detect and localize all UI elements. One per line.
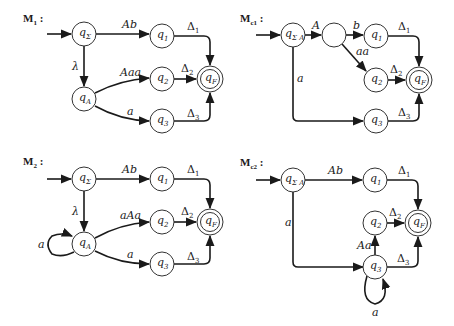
transition-label: aa bbox=[356, 45, 369, 58]
transition-edge bbox=[365, 276, 385, 304]
state-qsigmaa: qΣ A bbox=[281, 23, 305, 47]
transition-label: Δ3 bbox=[398, 106, 410, 121]
transition-label: a bbox=[297, 72, 304, 85]
transition-label: Δ2 bbox=[181, 62, 193, 77]
transition-label: a bbox=[127, 105, 134, 118]
machine-label: M2 : bbox=[23, 155, 43, 170]
transition-edge bbox=[95, 251, 149, 264]
state-q2: q2 bbox=[150, 210, 174, 234]
state-qf: qF bbox=[405, 210, 431, 236]
transition-label: Δ1 bbox=[398, 20, 410, 35]
diagram-layer: M1 :AbλAaaaΔ1Δ2Δ3qΣqAq1q2q3qFMc1 :AbaaaΔ… bbox=[23, 12, 432, 319]
state-q3: q3 bbox=[364, 109, 388, 133]
transition-label: Δ2 bbox=[181, 205, 193, 220]
state-qa: qA bbox=[72, 232, 96, 256]
transition-edge bbox=[95, 222, 149, 238]
machine-label: Mc2 : bbox=[240, 156, 263, 171]
state-q3: q3 bbox=[363, 255, 387, 279]
transition-label: Δ3 bbox=[187, 107, 199, 122]
transition-edge bbox=[95, 106, 149, 121]
transition-edge bbox=[388, 36, 419, 66]
state-qf: qF bbox=[406, 67, 432, 93]
state-q1: q1 bbox=[150, 24, 174, 48]
transition-label: b bbox=[353, 19, 360, 32]
state-blank bbox=[322, 23, 346, 47]
transition-label: Δ2 bbox=[389, 206, 401, 221]
transition-label: a bbox=[38, 238, 45, 251]
transition-edge bbox=[48, 234, 74, 256]
machine-label: M1 : bbox=[23, 12, 43, 27]
state-q1: q1 bbox=[150, 167, 174, 191]
state-q2: q2 bbox=[363, 211, 387, 235]
diagram-m2: M2 :AbλaAaaaΔ1Δ2Δ3qΣqAq1q2q3qF bbox=[23, 155, 223, 276]
transition-label: Δ3 bbox=[397, 252, 409, 267]
transition-edge bbox=[174, 36, 210, 65]
transition-label: Δ1 bbox=[187, 20, 199, 35]
state-q3: q3 bbox=[150, 252, 174, 276]
transition-edge bbox=[293, 192, 363, 267]
transition-label: Aa bbox=[356, 239, 372, 252]
transition-label: A bbox=[311, 19, 320, 32]
diagram-m1: M1 :AbλAaaaΔ1Δ2Δ3qΣqAq1q2q3qF bbox=[23, 12, 223, 133]
state-qf: qF bbox=[197, 66, 223, 92]
automata-diagrams-canvas: M1 :AbλAaaaΔ1Δ2Δ3qΣqAq1q2q3qFMc1 :AbaaaΔ… bbox=[0, 0, 454, 326]
state-q2: q2 bbox=[150, 67, 174, 91]
state-qsigmaa: qΣ A bbox=[281, 168, 305, 192]
transition-label: Δ2 bbox=[390, 63, 402, 78]
transition-edge bbox=[174, 179, 210, 208]
diagram-mc1: Mc1 :AbaaaΔ1Δ2Δ3qΣ Aq1q2q3qF bbox=[240, 12, 432, 133]
transition-label: a bbox=[127, 248, 134, 261]
transition-label: a bbox=[285, 216, 292, 229]
transition-label: Ab bbox=[121, 18, 137, 31]
transition-label: Δ1 bbox=[187, 163, 199, 178]
transition-edge bbox=[387, 180, 418, 209]
transition-label: a bbox=[372, 306, 379, 319]
state-qsigma: qΣ bbox=[72, 167, 96, 191]
transition-label: Aaa bbox=[119, 66, 141, 79]
state-q2: q2 bbox=[364, 68, 388, 92]
machine-label: Mc1 : bbox=[240, 12, 263, 27]
transition-label: Ab bbox=[121, 163, 137, 176]
transition-label: λ bbox=[71, 60, 79, 73]
state-q1: q1 bbox=[364, 24, 388, 48]
transition-label: λ bbox=[71, 205, 79, 218]
state-q1: q1 bbox=[363, 168, 387, 192]
transition-label: Ab bbox=[327, 164, 343, 177]
diagram-mc2: Mc2 :AbaAaaΔ1Δ2Δ3qΣ Aq1q2q3qF bbox=[240, 156, 431, 319]
state-qa: qA bbox=[72, 87, 96, 111]
state-qsigma: qΣ bbox=[72, 22, 96, 46]
transition-label: Δ1 bbox=[398, 164, 410, 179]
transition-edge bbox=[95, 78, 149, 93]
transition-label: aAa bbox=[120, 209, 141, 222]
state-circle bbox=[322, 23, 346, 47]
state-qf: qF bbox=[197, 209, 223, 235]
state-q3: q3 bbox=[150, 109, 174, 133]
transition-label: Δ3 bbox=[187, 250, 199, 265]
